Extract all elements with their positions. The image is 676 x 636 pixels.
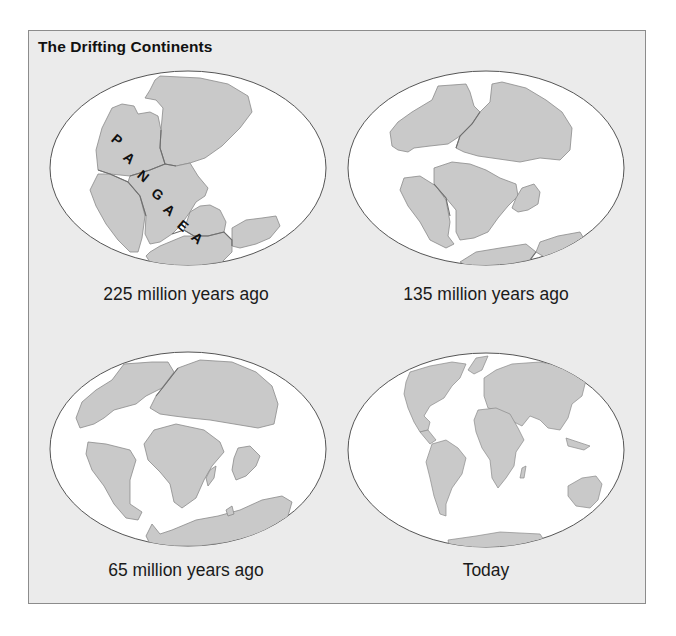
caption-today: Today <box>336 560 636 581</box>
map-225-million-years-ago: P A N G A E A <box>50 71 326 266</box>
caption-225-million-years-ago: 225 million years ago <box>36 284 336 305</box>
caption-135-million-years-ago: 135 million years ago <box>336 284 636 305</box>
maps-canvas: P A N G A E A <box>0 0 676 636</box>
map-today <box>348 353 624 552</box>
map-65-million-years-ago <box>50 352 326 546</box>
map-135-million-years-ago <box>348 71 624 268</box>
caption-65-million-years-ago: 65 million years ago <box>36 560 336 581</box>
